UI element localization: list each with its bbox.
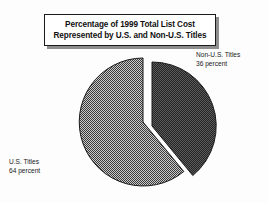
callout-nonus-titles: Non-U.S. Titles 36 percent <box>196 50 240 68</box>
callout-us-titles: U.S. Titles 64 percent <box>9 157 40 175</box>
pie-chart-figure: Percentage of 1999 Total List Cost Repre… <box>0 0 269 203</box>
pie-graphic <box>0 0 269 203</box>
callout-nonus-value: 36 percent <box>196 59 240 68</box>
callout-us-value: 64 percent <box>9 166 40 175</box>
callout-us-name: U.S. Titles <box>9 157 40 166</box>
callout-nonus-name: Non-U.S. Titles <box>196 50 240 59</box>
